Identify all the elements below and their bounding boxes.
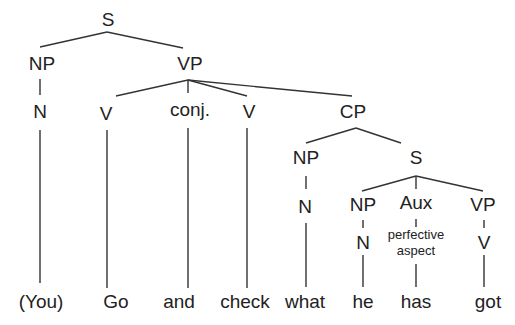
node-n-he: N: [356, 232, 370, 253]
node-vp-embedded: VP: [470, 194, 495, 215]
node-n-wh: N: [298, 196, 312, 217]
word-got: got: [475, 291, 502, 312]
word-what: what: [284, 291, 326, 312]
node-v-go: V: [100, 103, 113, 124]
node-np-subject: NP: [29, 53, 55, 74]
word-has: has: [401, 291, 432, 312]
aux-annotation-line2: aspect: [397, 243, 436, 258]
node-s-embedded: S: [410, 147, 423, 168]
word-he: he: [352, 291, 373, 312]
edge-cp-s: [356, 128, 401, 143]
word-and: and: [163, 291, 195, 312]
tree-words: (You) Go and check what he has got: [19, 291, 502, 312]
word-you: (You): [19, 291, 64, 312]
syntax-tree: S NP VP N V conj. V CP NP S N NP Aux VP …: [0, 0, 515, 325]
node-n-subject: N: [33, 101, 47, 122]
edge-s-np: [40, 32, 107, 47]
node-aux: Aux: [400, 192, 433, 213]
node-cp: CP: [340, 101, 366, 122]
node-np-he: NP: [350, 194, 376, 215]
aux-annotation-line1: perfective: [388, 227, 444, 242]
edge-vp-v: [116, 80, 188, 96]
edge-s-vp: [107, 32, 183, 48]
edge-s-np-he: [362, 176, 416, 191]
word-check: check: [220, 291, 270, 312]
node-v-check: V: [243, 101, 256, 122]
edge-s-vp-emb: [416, 176, 483, 191]
node-conj: conj.: [170, 99, 210, 120]
node-np-wh: NP: [293, 147, 319, 168]
edge-cp-np: [306, 128, 356, 143]
edge-vp-cp: [188, 80, 352, 96]
tree-nodes: S NP VP N V conj. V CP NP S N NP Aux VP …: [29, 9, 496, 258]
node-v-got: V: [478, 232, 491, 253]
word-go: Go: [103, 291, 128, 312]
node-vp-main: VP: [177, 53, 202, 74]
node-s-top: S: [102, 9, 115, 30]
